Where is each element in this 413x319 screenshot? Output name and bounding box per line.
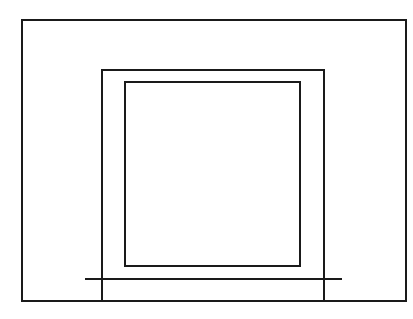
diagram-canvas bbox=[0, 0, 413, 319]
inner-rectangle bbox=[125, 82, 300, 266]
outer-rectangle bbox=[22, 20, 406, 301]
